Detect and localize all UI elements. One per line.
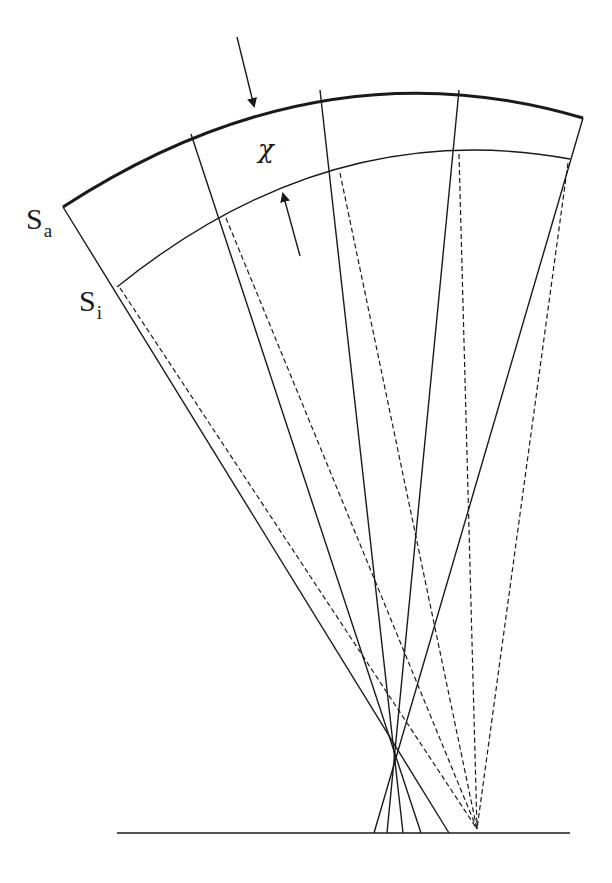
inner-surface-arc (117, 150, 570, 287)
solid-ray-1 (63, 207, 449, 833)
dashed-ray-5 (477, 163, 568, 829)
dashed-ray-3 (340, 173, 477, 829)
dashed-ray-1 (120, 288, 477, 829)
label-thickness-chi: χ (258, 134, 274, 164)
label-outer-surface-main: S (26, 202, 43, 235)
label-inner-surface: Si (79, 284, 101, 318)
solid-ray-3 (320, 90, 403, 833)
outer-surface-arc (63, 93, 583, 207)
label-outer-surface-sub: a (44, 220, 52, 241)
solid-ray-4 (387, 90, 459, 833)
wall-ray-diagram (0, 0, 612, 883)
label-inner-surface-main: S (79, 284, 96, 317)
inner-surface-arrow-icon (283, 194, 300, 256)
dashed-ray-2 (226, 218, 477, 829)
dashed-rays-group (120, 154, 568, 829)
label-inner-surface-sub: i (97, 302, 102, 323)
solid-rays-group (63, 90, 583, 833)
label-outer-surface: Sa (26, 202, 51, 236)
outer-surface-arrow-icon (237, 37, 254, 106)
solid-ray-5 (374, 118, 583, 833)
solid-ray-2 (191, 134, 421, 833)
